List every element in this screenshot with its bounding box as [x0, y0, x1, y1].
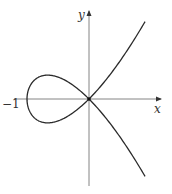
- node-point: [87, 97, 91, 101]
- nodal-cubic-figure: y x −1: [0, 0, 172, 194]
- tick-label-minus-one: −1: [2, 97, 20, 111]
- y-axis-label: y: [77, 8, 85, 22]
- x-axis-label: x: [154, 102, 161, 116]
